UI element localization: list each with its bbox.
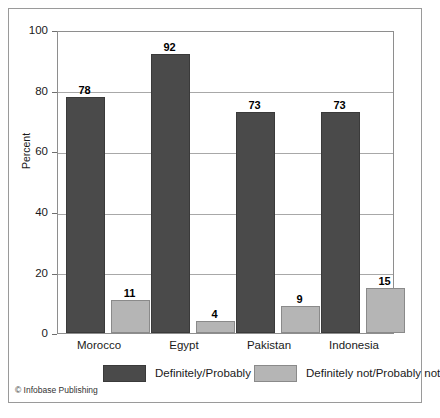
legend-swatch-light-icon: [254, 365, 297, 382]
x-tick-label-pakistan: Pakistan: [227, 340, 311, 352]
bar-value-indonesia-dark: 73: [320, 100, 359, 111]
bar-value-pakistan-dark: 73: [235, 100, 274, 111]
bar-indonesia-definitely-not: [366, 288, 405, 333]
legend-label-definitely-not: Definitely not/Probably not: [306, 367, 440, 379]
bar-morocco-definitely-not: [111, 300, 150, 333]
bar-value-pakistan-light: 9: [280, 294, 319, 305]
y-tick-label-80: 80: [14, 86, 48, 98]
gridline-80: [58, 92, 393, 93]
y-tick-mark-0: [52, 334, 57, 335]
bar-value-morocco-light: 11: [110, 288, 149, 299]
x-tick-label-morocco: Morocco: [57, 340, 141, 352]
legend-label-definitely-probably: Definitely/Probably: [155, 367, 251, 379]
bar-egypt-definitely-not: [196, 321, 235, 333]
legend-item-definitely-probably: Definitely/Probably: [103, 362, 251, 384]
y-tick-label-40: 40: [14, 207, 48, 219]
bar-value-morocco-dark: 78: [65, 85, 104, 96]
x-tick-label-egypt: Egypt: [142, 340, 226, 352]
bar-pakistan-definitely-not: [281, 306, 320, 333]
bar-value-egypt-dark: 92: [150, 42, 189, 53]
chart-legend: Definitely/Probably Definitely not/Proba…: [57, 362, 394, 388]
bar-value-indonesia-light: 15: [365, 276, 404, 287]
bar-morocco-definitely-probably: [66, 97, 105, 333]
bar-egypt-definitely-probably: [151, 54, 190, 333]
x-tick-label-indonesia: Indonesia: [312, 340, 396, 352]
legend-swatch-dark-icon: [103, 365, 146, 382]
y-tick-label-60: 60: [14, 146, 48, 158]
y-tick-label-20: 20: [14, 268, 48, 280]
y-tick-label-100: 100: [14, 25, 48, 37]
bar-pakistan-definitely-probably: [236, 112, 275, 333]
bar-value-egypt-light: 4: [195, 309, 234, 320]
publisher-credit: © Infobase Publishing: [15, 385, 98, 395]
legend-item-definitely-not: Definitely not/Probably not: [254, 362, 440, 384]
plot-area: [57, 31, 394, 334]
y-tick-label-0: 0: [14, 328, 48, 340]
bar-indonesia-definitely-probably: [321, 112, 360, 333]
